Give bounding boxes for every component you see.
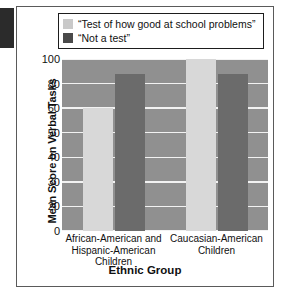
- legend-item-label: “Test of how good at school problems”: [78, 18, 255, 30]
- legend-swatch-icon: [63, 33, 73, 43]
- x-axis-tick-label-line: Caucasian-American: [166, 233, 267, 245]
- x-axis-tick-label: African-American andHispanic-AmericanChi…: [62, 233, 165, 268]
- x-axis-tick-label-line: Hispanic-American: [63, 245, 164, 257]
- bar: [218, 74, 248, 231]
- x-axis-title: Ethnic Group: [16, 264, 274, 276]
- x-axis-tick-label: Caucasian-AmericanChildren: [165, 233, 268, 268]
- bar: [83, 108, 113, 231]
- page-edge-artifact: [0, 8, 14, 48]
- figure-container: “Test of how good at school problems” “N…: [0, 0, 284, 295]
- legend-item: “Not a test”: [63, 31, 259, 45]
- legend-swatch-icon: [63, 19, 73, 29]
- bar: [186, 59, 216, 231]
- y-axis-tick-label: 0: [28, 226, 60, 237]
- y-axis-tick-label: 40: [28, 152, 60, 163]
- chart-legend: “Test of how good at school problems” “N…: [58, 13, 264, 49]
- bar: [115, 74, 145, 231]
- plot-area: [62, 59, 268, 231]
- y-axis-tick-label: 80: [28, 78, 60, 89]
- y-axis-tick-label: 50: [28, 127, 60, 138]
- legend-item-label: “Not a test”: [78, 32, 130, 44]
- y-axis-tick-label: 20: [28, 201, 60, 212]
- x-axis-tick-label-line: Children: [166, 245, 267, 257]
- gridline: [62, 59, 268, 60]
- y-axis-tick-label: 30: [28, 176, 60, 187]
- y-axis-tick-labels: 0203040506080100: [28, 59, 60, 231]
- y-axis-tick-label: 100: [28, 54, 60, 65]
- legend-item: “Test of how good at school problems”: [63, 17, 259, 31]
- x-axis-tick-label-line: African-American and: [63, 233, 164, 245]
- x-axis-tick-labels: African-American andHispanic-AmericanChi…: [62, 233, 268, 268]
- y-axis-tick-label: 60: [28, 103, 60, 114]
